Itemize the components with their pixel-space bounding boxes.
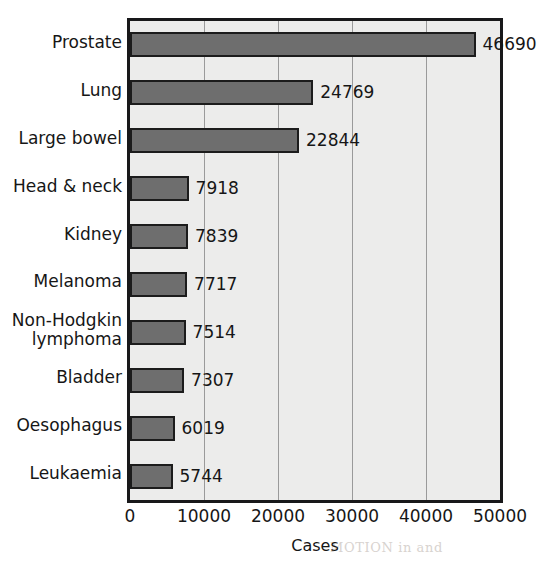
bar-value-label: 7839 (195, 228, 238, 245)
category-label: Large bowel (4, 129, 122, 147)
x-tick-label: 0 (125, 506, 136, 526)
bar (130, 128, 299, 153)
category-label: Head & neck (4, 176, 122, 194)
bar-value-label: 24769 (320, 84, 374, 101)
bar-row: 7307 (130, 368, 500, 393)
category-axis: ProstateLungLarge bowelHead & neckKidney… (0, 18, 122, 503)
bar-value-label: 5744 (180, 468, 223, 485)
bar-row: 7514 (130, 320, 500, 345)
x-axis-title: Cases (127, 536, 503, 555)
x-axis-ticks: 01000020000300004000050000 (127, 506, 503, 532)
bar-value-label: 7307 (191, 372, 234, 389)
bar-row: 5744 (130, 464, 500, 489)
category-label: Lung (4, 81, 122, 99)
category-label: Kidney (4, 224, 122, 242)
bar (130, 464, 173, 489)
bar (130, 368, 184, 393)
category-label: Non-Hodgkin lymphoma (4, 311, 122, 348)
category-label: Bladder (4, 368, 122, 386)
x-tick-label: 40000 (399, 506, 453, 526)
category-label: Melanoma (4, 272, 122, 290)
bar-value-label: 7918 (196, 180, 239, 197)
bar (130, 320, 186, 345)
bar-row: 22844 (130, 128, 500, 153)
x-tick-label: 30000 (325, 506, 379, 526)
bar-row: 46690 (130, 32, 500, 57)
bar (130, 176, 189, 201)
horizontal-bar-chart: ProstateLungLarge bowelHead & neckKidney… (0, 0, 558, 574)
bar-row: 6019 (130, 416, 500, 441)
bar-row: 7839 (130, 224, 500, 249)
plot-area: 4669024769228447918783977177514730760195… (127, 18, 503, 503)
bar-value-label: 7717 (194, 276, 237, 293)
x-tick-label: 20000 (251, 506, 305, 526)
bar-row: 7918 (130, 176, 500, 201)
bar-value-label: 7514 (193, 324, 236, 341)
bar-value-label: 46690 (483, 36, 537, 53)
bar-value-label: 6019 (182, 420, 225, 437)
bar (130, 80, 313, 105)
bar-row: 24769 (130, 80, 500, 105)
bar-row: 7717 (130, 272, 500, 297)
x-tick-label: 10000 (177, 506, 231, 526)
x-tick-label: 50000 (473, 506, 527, 526)
bar (130, 224, 188, 249)
category-label: Prostate (4, 33, 122, 51)
bar (130, 32, 476, 57)
bar (130, 416, 175, 441)
plot-inner: 4669024769228447918783977177514730760195… (130, 21, 500, 500)
bar (130, 272, 187, 297)
category-label: Oesophagus (4, 416, 122, 434)
bar-value-label: 22844 (306, 132, 360, 149)
category-label: Leukaemia (4, 464, 122, 482)
